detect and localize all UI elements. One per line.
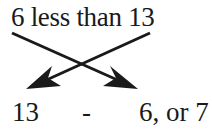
- minus-operator: -: [82, 97, 91, 127]
- right-operand-result: 6, or 7: [139, 97, 209, 127]
- left-operand: 13: [12, 97, 39, 127]
- arrow-13-to-left-icon: [26, 33, 150, 89]
- arrow-6-to-right-icon: [12, 33, 138, 89]
